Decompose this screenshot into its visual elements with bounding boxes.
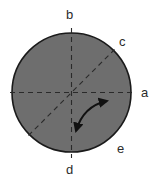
axis-label-d: d xyxy=(66,163,73,176)
axis-label-a: a xyxy=(141,86,148,99)
axis-label-b: b xyxy=(66,8,73,21)
axis-label-e: e xyxy=(117,142,124,155)
figure-canvas xyxy=(0,0,159,186)
geometry-figure: b c a e d xyxy=(0,0,159,186)
axis-label-c: c xyxy=(119,35,126,48)
